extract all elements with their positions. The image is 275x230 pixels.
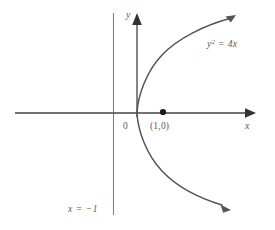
directrix-label: x = −1 [67,204,98,214]
figure-canvas: y x 0 (1,0) x = −1 y2 = 4x [0,0,275,230]
parabola-figure: y x 0 (1,0) x = −1 y2 = 4x [0,0,275,230]
equation-rest: = 4x [215,39,238,49]
y-axis-arrowhead [132,13,142,25]
parabola-lower-arrowhead [220,205,231,213]
focus-point-dot [160,109,166,115]
parabola-upper-branch [137,19,228,113]
equation-label: y2 = 4x [206,38,238,50]
origin-label: 0 [123,121,128,131]
y-axis-label: y [125,9,131,20]
x-axis-label: x [244,120,250,131]
x-axis-arrowhead [245,108,256,118]
focus-point-label: (1,0) [150,121,169,132]
